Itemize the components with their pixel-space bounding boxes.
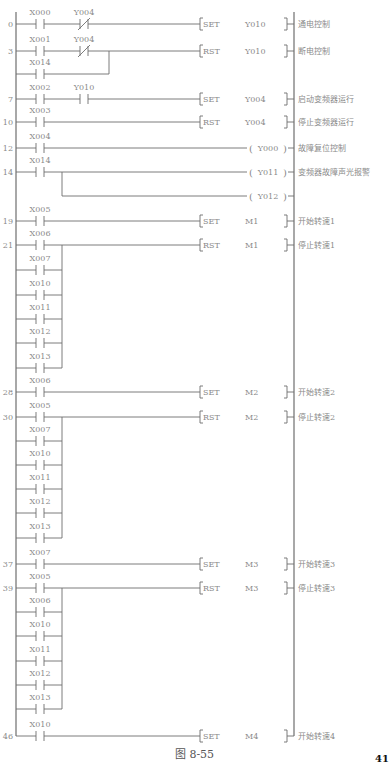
rung-comment: 开始转速3 bbox=[298, 559, 335, 569]
contact-label: X007 bbox=[30, 548, 51, 557]
rung-28: 28X006SETM2开始转速2 bbox=[3, 376, 335, 398]
function-instruction: RSTM3 bbox=[200, 582, 294, 594]
no-contact-icon: X007 bbox=[30, 425, 51, 446]
instruction-op: RST bbox=[203, 241, 221, 250]
contact-label: X014 bbox=[30, 156, 51, 165]
contact-label: Y004 bbox=[73, 8, 95, 17]
no-contact-icon: X006 bbox=[30, 229, 51, 250]
rung-comment: 停止转速1 bbox=[298, 240, 335, 250]
no-contact-icon: X012 bbox=[30, 669, 51, 690]
instruction-op: RST bbox=[203, 584, 221, 593]
coil-paren: ) bbox=[283, 167, 287, 178]
instruction-operand: M2 bbox=[245, 413, 258, 422]
output-coil: (Y000) bbox=[249, 143, 294, 154]
no-contact-icon: X011 bbox=[30, 645, 51, 666]
contact-label: X007 bbox=[30, 425, 51, 434]
rung-10: 10X003RSTY004停止变频器运行 bbox=[3, 106, 354, 128]
rung-comment: 停止转速3 bbox=[298, 583, 335, 593]
instruction-operand: Y004 bbox=[244, 95, 266, 104]
instruction-op: RST bbox=[203, 413, 221, 422]
contact-label: X006 bbox=[30, 376, 51, 385]
rung-comment: 断电控制 bbox=[298, 46, 330, 56]
step-number: 12 bbox=[3, 144, 13, 153]
rung-0: 0X000Y004SETY010通电控制 bbox=[8, 8, 330, 30]
contact-label: X010 bbox=[30, 449, 51, 458]
no-contact-icon: X001 bbox=[30, 35, 51, 56]
step-number: 46 bbox=[3, 732, 13, 741]
function-instruction: RSTM1 bbox=[200, 239, 294, 251]
step-number: 3 bbox=[8, 47, 13, 56]
function-instruction: SETY004 bbox=[200, 93, 294, 105]
rung-comment: 停止转速2 bbox=[298, 412, 335, 422]
function-instruction: RSTY004 bbox=[200, 116, 294, 128]
coil-paren: ( bbox=[249, 191, 253, 202]
rung-19: 19X005SETM1开始转速1 bbox=[3, 205, 335, 227]
rung-comment: 变频器故障声光报警 bbox=[298, 167, 370, 177]
contact-label: X010 bbox=[30, 279, 51, 288]
contact-label: X014 bbox=[30, 58, 51, 67]
instruction-op: RST bbox=[203, 47, 221, 56]
contact-label: X011 bbox=[30, 473, 51, 482]
step-number: 19 bbox=[3, 217, 13, 226]
no-contact-icon: X006 bbox=[30, 376, 51, 397]
contact-label: X001 bbox=[30, 35, 51, 44]
contact-label: X004 bbox=[30, 132, 51, 141]
coil-operand: Y011 bbox=[257, 168, 279, 177]
contact-label: X013 bbox=[30, 522, 51, 531]
step-number: 10 bbox=[3, 118, 13, 127]
contact-label: X011 bbox=[30, 303, 51, 312]
rung-comment: 通电控制 bbox=[298, 19, 330, 29]
contact-label: X007 bbox=[30, 254, 51, 263]
instruction-operand: Y010 bbox=[244, 20, 266, 29]
rung-3: 3X001Y004X014RSTY010断电控制 bbox=[8, 35, 330, 79]
contact-label: Y004 bbox=[73, 35, 95, 44]
page-number: 41 bbox=[375, 753, 389, 764]
contact-label: X005 bbox=[30, 401, 51, 410]
no-contact-icon: X003 bbox=[30, 106, 51, 127]
no-contact-icon: X011 bbox=[30, 473, 51, 494]
no-contact-icon: X010 bbox=[30, 449, 51, 470]
no-contact-icon: X000 bbox=[30, 8, 51, 29]
contact-label: X000 bbox=[30, 8, 51, 17]
contact-label: Y010 bbox=[73, 83, 95, 92]
no-contact-icon: X011 bbox=[30, 303, 51, 324]
instruction-op: SET bbox=[203, 95, 220, 104]
step-number: 0 bbox=[8, 20, 13, 29]
contact-label: X013 bbox=[30, 352, 51, 361]
function-instruction: SETM3 bbox=[200, 558, 294, 570]
contact-label: X002 bbox=[30, 83, 51, 92]
contact-label: X012 bbox=[30, 669, 51, 678]
instruction-operand: M3 bbox=[245, 560, 258, 569]
function-instruction: SETY010 bbox=[200, 18, 294, 30]
no-contact-icon: X014 bbox=[30, 156, 51, 177]
coil-paren: ( bbox=[249, 143, 253, 154]
step-number: 37 bbox=[3, 560, 13, 569]
no-contact-icon: X005 bbox=[30, 205, 51, 226]
no-contact-icon: X012 bbox=[30, 327, 51, 348]
instruction-operand: M1 bbox=[245, 217, 258, 226]
rung-comment: 停止变频器运行 bbox=[298, 117, 354, 127]
coil-operand: Y012 bbox=[257, 192, 279, 201]
no-contact-icon: X012 bbox=[30, 497, 51, 518]
no-contact-icon: X013 bbox=[30, 693, 51, 714]
rung-comment: 启动变频器运行 bbox=[298, 94, 354, 104]
function-instruction: SETM1 bbox=[200, 215, 294, 227]
instruction-operand: Y004 bbox=[244, 118, 266, 127]
no-contact-icon: Y010 bbox=[73, 83, 95, 104]
rung-7: 7X002Y010SETY004启动变频器运行 bbox=[8, 83, 354, 105]
no-contact-icon: X002 bbox=[30, 83, 51, 104]
rung-46: 46X010SETM4开始转速4 bbox=[3, 720, 335, 742]
instruction-op: SET bbox=[203, 20, 220, 29]
contact-label: X006 bbox=[30, 229, 51, 238]
figure-caption: 图 8-55 bbox=[0, 745, 389, 761]
rung-comment: 开始转速1 bbox=[298, 216, 335, 226]
instruction-operand: M3 bbox=[245, 584, 258, 593]
instruction-op: RST bbox=[203, 118, 221, 127]
rung-comment: 故障复位控制 bbox=[298, 143, 346, 153]
contact-label: X003 bbox=[30, 106, 51, 115]
no-contact-icon: X007 bbox=[30, 254, 51, 275]
contact-label: X012 bbox=[30, 327, 51, 336]
rung-39: 39X005X006X010X011X012X013RSTM3停止转速3 bbox=[3, 572, 335, 714]
coil-operand: Y000 bbox=[257, 144, 279, 153]
instruction-op: SET bbox=[203, 732, 220, 741]
